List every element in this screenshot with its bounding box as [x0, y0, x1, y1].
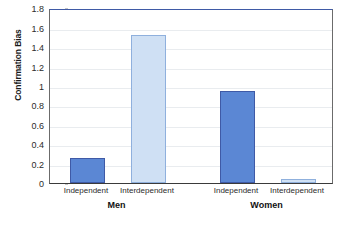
y-axis-tick-label: 1.2	[18, 63, 44, 73]
x-axis-group-label-group: MenWomen	[49, 200, 333, 216]
y-axis-tick-label-group: 00.20.40.60.811.21.41.61.8	[18, 9, 44, 184]
gridline	[50, 88, 332, 89]
y-axis-tick-label: 1.8	[18, 4, 44, 14]
gridline	[50, 49, 332, 50]
bar	[131, 35, 166, 183]
y-axis-tick-label: 1.4	[18, 43, 44, 53]
gridline	[50, 127, 332, 128]
y-axis-tick-label: 1	[18, 82, 44, 92]
gridline	[50, 107, 332, 108]
y-axis-tick-label: 0.4	[18, 140, 44, 150]
gridline	[50, 146, 332, 147]
gridline	[50, 69, 332, 70]
y-axis-tick-label: 0.6	[18, 121, 44, 131]
confirmation-bias-bar-chart: Confirmation Bias 00.20.40.60.811.21.41.…	[0, 0, 346, 231]
x-axis-tick-label: Interdependent	[270, 186, 324, 195]
gridline	[50, 30, 332, 31]
bar	[281, 179, 316, 183]
y-axis-tick-label: 1.6	[18, 24, 44, 34]
x-axis-tick-label-group: IndependentInterdependentIndependentInte…	[49, 186, 333, 200]
bar	[220, 91, 255, 183]
x-axis-tick-label: Interdependent	[120, 186, 174, 195]
x-axis-group-label: Men	[108, 200, 126, 210]
bar	[70, 158, 105, 183]
x-axis-tick-label: Independent	[214, 186, 259, 195]
y-axis-tick-label: 0.8	[18, 101, 44, 111]
plot-area	[49, 9, 333, 184]
x-axis-group-label: Women	[250, 200, 282, 210]
y-axis-tick-label: 0	[18, 179, 44, 189]
x-axis-tick-label: Independent	[64, 186, 109, 195]
y-axis-tick-label: 0.2	[18, 160, 44, 170]
